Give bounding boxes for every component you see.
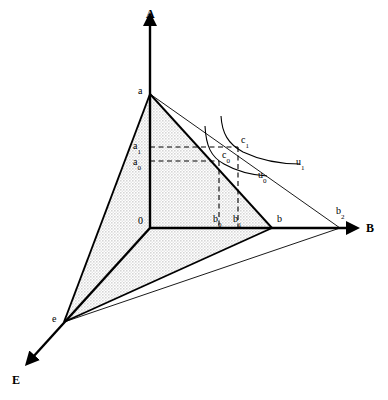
axis-label-E: E [12,374,20,386]
point-label-c1: c1 [241,135,249,148]
point-label-a: a [138,86,142,96]
point-label-origin: 0 [138,216,143,226]
point-label-a1: a1 [133,141,141,154]
point-label-a0: a0 [133,157,141,170]
figure-canvas: A B E a a1 a0 0 b0 b1 b b2 e c0 c1 u0 u1 [0,0,388,400]
point-label-b0: b0 [213,214,222,227]
axis-label-B: B [366,222,374,234]
point-label-c0: c0 [222,150,230,163]
point-label-e: e [52,314,56,324]
point-label-b: b [277,214,282,224]
diagram-svg [0,0,388,400]
curve-label-u1: u1 [296,157,305,170]
point-label-b1: b1 [233,214,242,227]
curve-label-u0: u0 [258,170,267,183]
indifference-curve-u1 [221,116,300,164]
point-label-b2: b2 [336,206,345,219]
axis-label-A: A [146,8,155,20]
